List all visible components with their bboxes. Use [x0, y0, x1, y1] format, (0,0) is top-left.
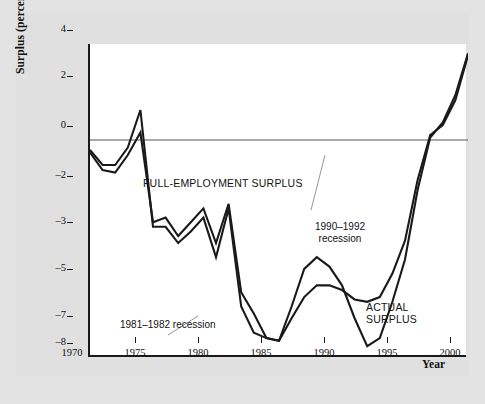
x-tick-mark: [387, 337, 388, 343]
annotation-actual-surplus: ACTUAL SURPLUS: [366, 301, 417, 325]
annotation-1990-recession: 1990–1992 recession: [304, 221, 376, 244]
annotation-1981-recession: 1981–1982 recession: [120, 319, 216, 331]
y-tick-mark: [67, 30, 73, 31]
series-line-full-employment-surplus: [90, 56, 468, 341]
y-tick-label: 0: [40, 119, 66, 130]
x-tick-mark: [450, 337, 451, 343]
y-tick-label: –8: [40, 336, 66, 347]
y-tick-label: 2: [40, 69, 66, 80]
x-tick-mark: [135, 337, 136, 343]
y-tick-label: –3: [40, 215, 66, 226]
y-tick-label: –2: [40, 169, 66, 180]
y-axis-title: Surplus (percent of GDP): [14, 0, 26, 74]
y-tick-mark: [67, 76, 73, 77]
x-tick-mark: [198, 337, 199, 343]
figure-page: Surplus (percent of GDP) 420–2–3–5–7–8 1…: [0, 0, 485, 404]
figure-frame: Surplus (percent of GDP) 420–2–3–5–7–8 1…: [16, 14, 469, 376]
annotation-full-employment-surplus: FULL-EMPLOYMENT SURPLUS: [143, 177, 303, 189]
x-tick-label: 1980: [176, 347, 220, 358]
y-tick-mark: [67, 316, 73, 317]
x-tick-mark: [261, 337, 262, 343]
y-tick-mark: [67, 126, 73, 127]
x-tick-mark: [324, 337, 325, 343]
y-tick-mark: [67, 343, 73, 344]
y-tick-label: –5: [40, 262, 66, 273]
x-tick-label: 1975: [113, 347, 157, 358]
x-tick-label: 1970: [50, 347, 94, 358]
x-axis-title: Year: [422, 358, 445, 370]
y-tick-mark: [67, 269, 73, 270]
leader-line-1990-recession: [311, 155, 325, 210]
x-tick-label: 1990: [302, 347, 346, 358]
y-tick-mark: [67, 176, 73, 177]
x-tick-label: 1995: [365, 347, 409, 358]
x-tick-label: 1985: [239, 347, 283, 358]
y-tick-label: 4: [40, 23, 66, 34]
y-tick-label: –7: [40, 309, 66, 320]
y-tick-mark: [67, 222, 73, 223]
x-tick-label: 2000: [428, 347, 472, 358]
